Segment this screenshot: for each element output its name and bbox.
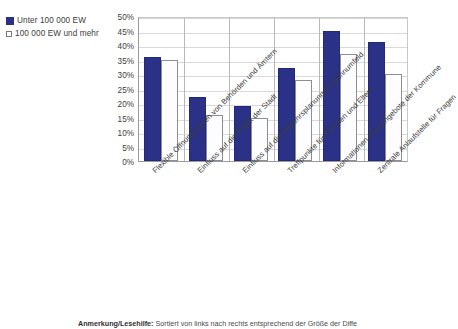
bar-series2 [340, 54, 357, 161]
y-tick-label: 0% [122, 158, 134, 167]
bar-group [139, 18, 184, 161]
bar-series2 [295, 80, 312, 161]
footnote-text: Sortiert von links nach rechts entsprech… [153, 319, 357, 328]
y-tick-label: 10% [118, 129, 134, 138]
bar-groups [139, 18, 407, 161]
bar-group [228, 18, 273, 161]
y-tick-label: 50% [118, 13, 134, 22]
plot-area [138, 17, 408, 162]
bar-series1 [278, 68, 295, 161]
y-tick-label: 30% [118, 71, 134, 80]
bar-series1 [323, 31, 340, 162]
chart-footnote: Anmerkung/Lesehilfe: Sortiert von links … [78, 319, 418, 328]
bar-series1 [234, 106, 251, 161]
bar-series1 [189, 97, 206, 161]
bar-series1 [144, 57, 161, 161]
bar-group [184, 18, 229, 161]
bar-series2 [385, 74, 402, 161]
y-tick-label: 40% [118, 42, 134, 51]
bar-series2 [251, 118, 268, 162]
y-axis-tick-labels: 50%45%40%35%30%25%20%15%10%5%0% [108, 12, 134, 164]
y-tick-label: 35% [118, 56, 134, 65]
y-tick-label: 25% [118, 85, 134, 94]
bar-series2 [206, 115, 223, 161]
footnote-label: Anmerkung/Lesehilfe: [78, 319, 153, 328]
y-tick-label: 45% [118, 27, 134, 36]
bar-group [318, 18, 363, 161]
bar-series1 [368, 42, 385, 161]
bar-group [362, 18, 407, 161]
bar-group [273, 18, 318, 161]
y-tick-label: 20% [118, 100, 134, 109]
bar-series2 [161, 60, 178, 162]
y-tick-label: 15% [118, 114, 134, 123]
y-tick-label: 5% [122, 143, 134, 152]
